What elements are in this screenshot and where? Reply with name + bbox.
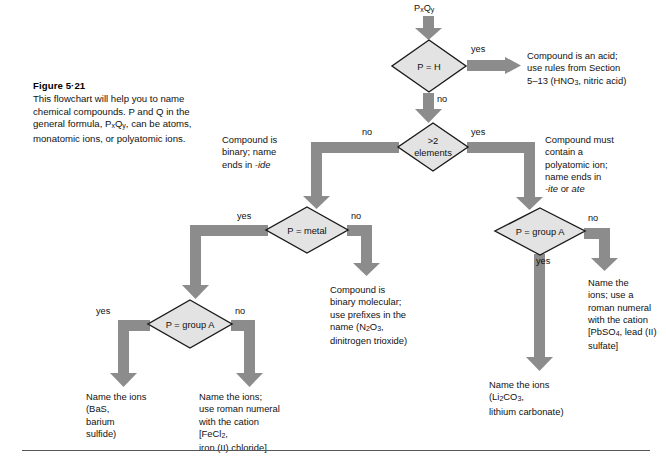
outcome-name-ions-bas: Name the ions(BaS,bariumsulfide) <box>86 391 191 440</box>
branch-label-elements-yes: yes <box>471 127 485 137</box>
arrow-group-a-left-yes <box>110 320 150 387</box>
outcome-binary-molecular: Compound isbinary molecular;use prefixes… <box>330 284 455 347</box>
arrow-elements-no <box>303 142 399 209</box>
decision-p-is-group-a-right: P = group A <box>495 208 585 255</box>
bottom-divider <box>22 450 650 451</box>
decision-group-a-right-label: P = group A <box>516 227 565 237</box>
decision-p-is-metal: P = metal <box>266 207 348 253</box>
arrow-p-is-h-yes <box>467 57 521 74</box>
arrow-metal-yes <box>182 225 268 299</box>
arrow-group-a-left-no <box>231 320 263 387</box>
outcome-name-ions-pbso4: Name theions; use aroman numeralwith the… <box>588 277 666 353</box>
outcome-acid: Compound is an acid;use rules from Secti… <box>527 50 662 89</box>
decision-p-is-group-a-left: P = group A <box>148 300 232 348</box>
decision-p-is-h-label: P = H <box>417 62 440 72</box>
branch-label-group-a-right-yes: yes <box>536 256 550 266</box>
arrow-group-a-right-yes <box>526 254 553 371</box>
decision-p-is-metal-label: P = metal <box>287 226 326 236</box>
arrow-group-a-right-no <box>584 228 618 271</box>
flowchart-figure: Figure 5·21 This flowchart will help you… <box>0 0 666 465</box>
branch-label-metal-yes: yes <box>237 211 251 221</box>
branch-label-group-a-right-no: no <box>588 213 598 223</box>
branch-label-p-is-h-no: no <box>437 94 447 104</box>
outcome-name-ions-fecl2: Name the ions;use roman numeralwith the … <box>199 391 324 454</box>
branch-label-elements-no: no <box>362 127 372 137</box>
branch-label-group-a-left-no: no <box>235 306 245 316</box>
decision-elements-label-line2: elements <box>414 148 452 158</box>
decision-more-than-two-elements: >2 elements <box>398 123 468 171</box>
decision-group-a-left-label: P = group A <box>166 320 215 330</box>
outcome-binary: Compound isbinary; nameends in -ide <box>222 134 312 171</box>
outcome-name-ions-li2co3: Name the ions(Li2CO3,lithium carbonate) <box>489 379 619 418</box>
decision-p-is-h: P = H <box>392 40 466 92</box>
branch-label-metal-no: no <box>351 211 361 221</box>
outcome-polyatomic: Compound mustcontain apolyatomic ion;nam… <box>545 134 655 195</box>
arrow-start-to-p-is-h <box>415 16 442 40</box>
arrow-elements-yes <box>467 142 543 210</box>
decision-elements-label-line1: >2 <box>428 136 439 146</box>
branch-label-p-is-h-yes: yes <box>471 44 485 54</box>
arrow-metal-no <box>347 225 380 276</box>
branch-label-group-a-left-yes: yes <box>96 306 110 316</box>
